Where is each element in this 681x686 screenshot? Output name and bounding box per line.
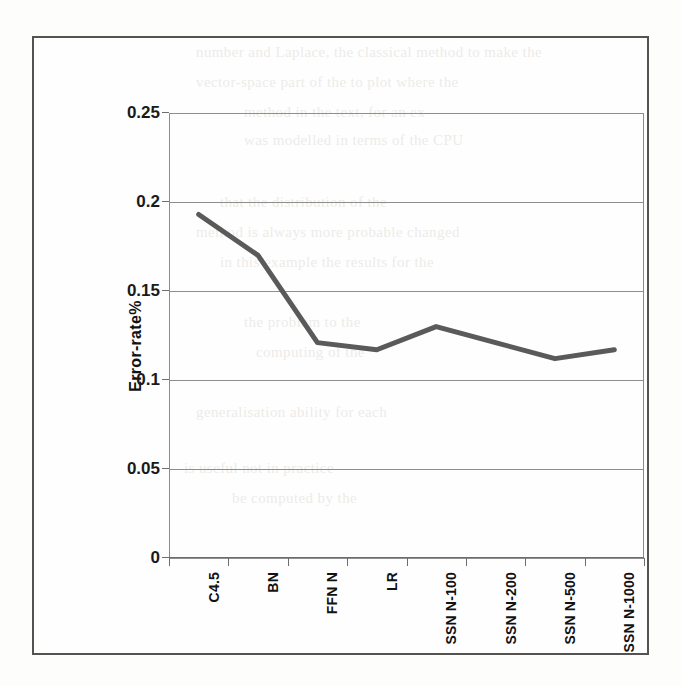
series-line-chart: [169, 113, 644, 558]
y-axis-tick-label: 0.15: [127, 281, 160, 301]
x-axis-tick-mark: [525, 558, 526, 566]
x-axis-tick-mark: [288, 558, 289, 566]
x-axis-tick-mark: [644, 558, 645, 566]
series-error-rate-line: [199, 214, 615, 358]
x-axis-category-label: SSN N-100: [443, 572, 459, 645]
x-axis-tick-mark: [407, 558, 408, 566]
x-axis-tick-mark: [169, 558, 170, 566]
y-axis-tick-label: 0.1: [136, 370, 160, 390]
y-axis-tick-mark: [162, 468, 169, 469]
x-axis-tick-mark: [466, 558, 467, 566]
y-axis-tick-label: 0.25: [127, 103, 160, 123]
y-axis-tick-label: 0.05: [127, 459, 160, 479]
y-axis-tick-mark: [162, 201, 169, 202]
x-axis-category-label: LR: [384, 572, 400, 591]
x-axis-category-label: SSN N-500: [562, 572, 578, 645]
x-axis-category-label: C4.5: [206, 572, 222, 602]
x-axis-tick-mark: [585, 558, 586, 566]
x-axis-category-label: SSN N-200: [503, 572, 519, 645]
plot-area: 00.050.10.150.20.25 C4.5BNFFN NLRSSN N-1…: [169, 113, 644, 558]
y-axis-tick-mark: [162, 290, 169, 291]
y-axis-tick-label: 0: [151, 548, 160, 568]
x-axis-category-label: FFN N: [324, 572, 340, 614]
x-axis-category-label: BN: [265, 572, 281, 593]
y-axis-tick-label: 0.2: [136, 192, 160, 212]
y-axis-tick-mark: [162, 557, 169, 558]
x-axis-tick-mark: [347, 558, 348, 566]
figure-page: number and Laplace, the classical method…: [0, 0, 681, 686]
x-axis-tick-mark: [228, 558, 229, 566]
x-axis-category-label: SSN N-1000: [621, 572, 637, 653]
chart-frame: Error-rate% 00.050.10.150.20.25 C4.5BNFF…: [32, 36, 649, 655]
y-axis-tick-mark: [162, 379, 169, 380]
y-axis-tick-mark: [162, 112, 169, 113]
